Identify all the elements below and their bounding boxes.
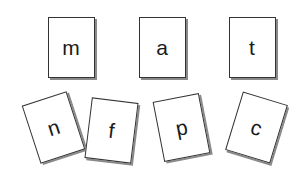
card-p: p [152, 93, 210, 162]
card-f: f [84, 97, 138, 163]
card-letter: t [249, 37, 255, 58]
card-letter: f [107, 119, 115, 141]
card-letter: a [156, 37, 168, 58]
card-a: a [139, 17, 186, 78]
card-n: n [21, 91, 85, 164]
card-letter: c [248, 115, 264, 138]
card-letter: p [173, 116, 188, 139]
card-c: c [225, 91, 288, 163]
card-t: t [229, 17, 276, 78]
card-letter: m [62, 37, 80, 58]
card-letter: n [44, 115, 62, 139]
letter-cards-diagram: m a t n f p c [0, 0, 304, 176]
card-m: m [48, 17, 95, 78]
